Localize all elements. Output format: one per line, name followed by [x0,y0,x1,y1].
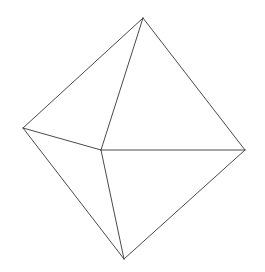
edge-top-right [143,18,245,150]
edge-right-bottom [124,150,245,259]
edges-group [23,18,245,259]
edge-center-bottom [101,150,124,259]
edge-left-bottom [23,128,124,259]
polyhedron-diagram [0,0,265,272]
edge-left-center [23,128,101,150]
